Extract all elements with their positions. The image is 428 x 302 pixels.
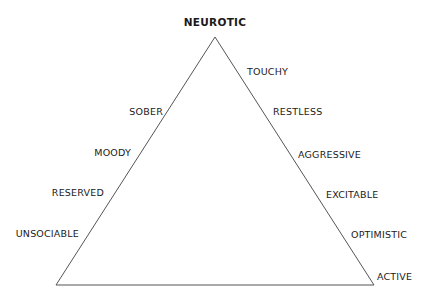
right-label-optimistic: OPTIMISTIC [351,229,407,241]
right-label-restless: RESTLESS [273,106,322,118]
left-label-moody: MOODY [94,147,131,159]
left-label-reserved: RESERVED [52,187,104,199]
apex-label-neurotic: NEUROTIC [184,16,247,28]
personality-triangle [0,0,428,302]
left-label-sober: SOBER [129,106,163,118]
triangle-outline [56,37,374,285]
right-label-active: ACTIVE [377,271,412,283]
left-label-unsociable: UNSOCIABLE [16,228,79,240]
right-label-excitable: EXCITABLE [326,189,378,201]
right-label-aggressive: AGGRESSIVE [298,149,361,161]
right-label-touchy: TOUCHY [247,66,288,78]
